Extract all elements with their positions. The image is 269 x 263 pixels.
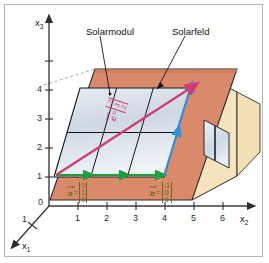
vector-b-overarrow-icon [149, 185, 157, 189]
tick-x2-2: 2 [104, 213, 109, 223]
axis-origin-label: 0 [38, 197, 43, 207]
tick-x3-1: 1 [37, 171, 42, 181]
vector-b-equals: = [156, 188, 161, 197]
tick-x2-6: 6 [220, 213, 225, 223]
figure-root: Solarmodul Solarfeld x3 x2 x1 0 1 2 3 4 … [0, 0, 269, 263]
vector-b-c1: -1 [164, 182, 170, 189]
axis-label-x1-sub: 1 [27, 246, 31, 253]
vector-a-overarrow-icon [67, 185, 75, 189]
vector-b-c2: 0 [165, 189, 169, 196]
tick-x3-2: 2 [37, 142, 42, 152]
tick-x2-3: 3 [133, 213, 138, 223]
callout-label-solarmodul: Solarmodul [86, 26, 134, 37]
vector-a-name-text: a [68, 189, 72, 198]
vector-a-c3: 0 [81, 196, 85, 203]
axis-label-x1: x1 [22, 240, 30, 253]
tick-x3-4: 4 [37, 84, 42, 94]
vector-b-label: b = -1 0 1 [150, 182, 172, 203]
vector-b-name: b [150, 188, 155, 198]
dashed-guide [44, 69, 95, 85]
vector-a-matrix: 0 1 0 [79, 182, 87, 203]
vector-a-label: a = 0 1 0 [68, 182, 87, 203]
vector-b-matrix: -1 0 1 [162, 182, 172, 203]
vector-b-paren-right [171, 182, 172, 203]
tick-x1-1: 1 [22, 214, 27, 224]
tick-x2-4: 4 [162, 213, 167, 223]
axis-label-x2-sub: 2 [245, 219, 249, 226]
vector-c-c3: 2 [120, 104, 128, 110]
vector-b-name-text: b [150, 189, 155, 198]
vector-a-paren-right [86, 182, 87, 203]
axis-x1 [16, 206, 49, 243]
tick-x2-5: 5 [191, 213, 196, 223]
axis-label-x2: x2 [240, 213, 248, 226]
vector-a-name: a [68, 188, 72, 198]
scene-diagram [0, 0, 269, 263]
tick-x3-3: 3 [37, 113, 42, 123]
vector-a-equals: = [73, 188, 78, 197]
axis-label-x3-sub: 3 [40, 23, 44, 30]
leader-dot-solarmodul [109, 93, 112, 96]
axis-label-x3: x3 [35, 17, 43, 30]
callout-label-solarfeld: Solarfeld [172, 26, 210, 37]
tick-x2-1: 1 [75, 213, 80, 223]
vector-b-c3: 1 [165, 196, 169, 203]
vector-a-c2: 1 [81, 189, 85, 196]
vector-a-c1: 0 [81, 182, 85, 189]
vector-b-components: -1 0 1 [163, 182, 171, 203]
